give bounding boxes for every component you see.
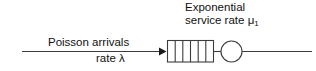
service-rate-label: Exponential service rate μ1 <box>185 1 259 28</box>
server-circle <box>221 41 242 62</box>
arrival-label-line1: Poisson arrivals <box>48 36 129 49</box>
diagram-canvas: Exponential service rate μ1 Poisson arri… <box>0 0 316 71</box>
queue-cell-dividers <box>175 41 206 63</box>
service-rate-text: service rate <box>185 14 248 26</box>
arrival-label-line2: rate λ <box>96 52 125 65</box>
service-rate-label-line1: Exponential <box>185 1 245 13</box>
mu-subscript: 1 <box>254 19 258 28</box>
service-rate-label-line2: service rate μ1 <box>185 14 259 29</box>
arrival-arrow-head <box>159 48 167 56</box>
